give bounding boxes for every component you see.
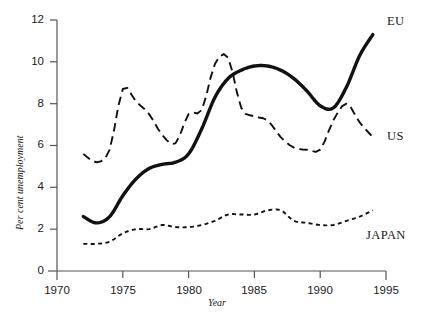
series-label-us: US (387, 129, 404, 144)
unemployment-line-chart: 12 10 8 6 4 2 0 1970 1975 1980 1985 1990… (0, 0, 436, 324)
x-tick-label-1985: 1985 (227, 284, 281, 296)
series-label-eu: EU (387, 14, 404, 29)
x-tick-label-1975: 1975 (96, 284, 150, 296)
series-line-japan (83, 209, 373, 244)
y-axis-title: Per cent unemployment (14, 136, 25, 230)
x-tick-label-1970: 1970 (30, 284, 84, 296)
x-tick-label-1995: 1995 (359, 284, 413, 296)
y-axis-ticks (48, 20, 57, 271)
x-axis-title: Year (208, 297, 226, 308)
x-tick-label-1980: 1980 (162, 284, 216, 296)
x-axis-ticks (57, 271, 386, 280)
series-label-japan: JAPAN (366, 228, 406, 243)
y-tick-label-8: 8 (10, 97, 44, 109)
x-tick-label-1990: 1990 (293, 284, 347, 296)
y-tick-label-0: 0 (10, 264, 44, 276)
chart-plot-area (0, 0, 436, 324)
y-tick-label-12: 12 (10, 13, 44, 25)
y-tick-label-10: 10 (10, 55, 44, 67)
